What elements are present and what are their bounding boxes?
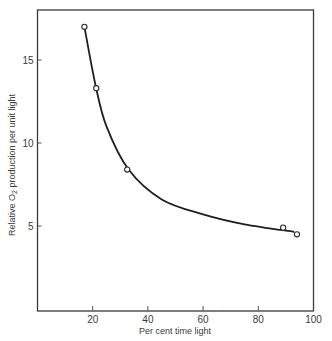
x-tick-label: 20 bbox=[87, 314, 99, 325]
x-axis-ticks: 20406080100 bbox=[87, 306, 322, 325]
y-tick-label: 10 bbox=[22, 138, 34, 149]
plot-frame bbox=[38, 10, 314, 311]
data-point-marker bbox=[294, 232, 299, 237]
data-point-marker bbox=[281, 225, 286, 230]
chart: 20406080100 51015 Per cent time light Re… bbox=[0, 0, 332, 341]
x-tick-label: 100 bbox=[305, 314, 322, 325]
y-tick-label: 15 bbox=[22, 55, 34, 66]
y-axis-label: Relative O2 production per unit light bbox=[7, 94, 18, 236]
x-axis-label: Per cent time light bbox=[139, 326, 212, 336]
data-points bbox=[82, 24, 300, 237]
data-point-marker bbox=[125, 167, 130, 172]
y-axis-label-suffix: production per unit light bbox=[7, 94, 17, 191]
x-tick-label: 80 bbox=[253, 314, 265, 325]
y-axis-ticks: 51015 bbox=[22, 55, 41, 232]
data-point-marker bbox=[82, 24, 87, 29]
fitted-curve bbox=[84, 27, 294, 232]
y-tick-label: 5 bbox=[28, 221, 34, 232]
data-point-marker bbox=[94, 86, 99, 91]
x-tick-label: 40 bbox=[142, 314, 154, 325]
x-tick-label: 60 bbox=[198, 314, 210, 325]
y-axis-label-prefix: Relative O bbox=[7, 194, 17, 236]
